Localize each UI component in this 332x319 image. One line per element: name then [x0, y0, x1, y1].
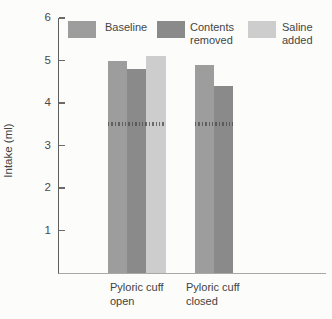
- bar-baseline-group2: [195, 65, 214, 273]
- bar-chart-figure: Baseline Contents removed Saline added I…: [0, 0, 332, 319]
- y-tick-mark-6: [59, 17, 65, 19]
- bar-contents-removed-group1: [127, 69, 146, 273]
- y-tick-mark-1: [59, 230, 65, 232]
- bar-contents-removed-group2: [214, 86, 233, 273]
- y-tick-label-5: 5: [33, 54, 51, 66]
- y-tick-label-6: 6: [33, 11, 51, 23]
- y-tick-mark-5: [59, 60, 65, 62]
- y-tick-label-4: 4: [33, 96, 51, 108]
- plot-area: 123456: [58, 18, 326, 274]
- y-tick-label-2: 2: [33, 181, 51, 193]
- y-tick-mark-3: [59, 145, 65, 147]
- y-axis-title: Intake (ml): [2, 91, 17, 211]
- y-tick-label-1: 1: [33, 224, 51, 236]
- bar-saline-added-group1: [146, 56, 165, 273]
- reference-line-3-5-group1: [108, 122, 166, 126]
- x-group-label-closed: Pyloric cuff closed: [186, 280, 240, 308]
- x-group-label-open: Pyloric cuff open: [110, 280, 164, 308]
- bar-baseline-group1: [108, 61, 127, 274]
- y-tick-mark-2: [59, 187, 65, 189]
- y-tick-label-3: 3: [33, 139, 51, 151]
- y-tick-mark-4: [59, 102, 65, 104]
- reference-line-3-5-group2: [195, 122, 233, 126]
